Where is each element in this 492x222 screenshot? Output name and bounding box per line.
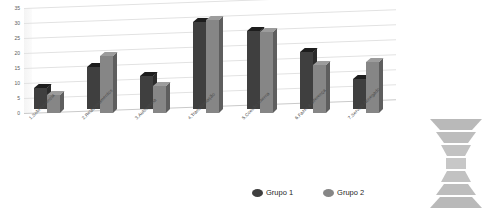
bar-side	[166, 82, 170, 113]
legend-label: Grupo 1	[266, 188, 293, 197]
y-tick-label: 20	[14, 51, 20, 56]
legend-swatch-icon	[252, 189, 263, 197]
legend-item[interactable]: Grupo 1	[252, 188, 293, 197]
chart-figure: 05101520253035 1.Sobrevivência2.Relacion…	[0, 0, 492, 222]
bar-grupo-2[interactable]	[100, 56, 113, 113]
y-tick-label: 30	[14, 21, 20, 26]
y-tick-label: 10	[14, 81, 20, 86]
consciousness-levels-funnel: 7654321	[424, 118, 488, 218]
y-axis: 05101520253035	[0, 0, 22, 118]
plot-area: 05101520253035 1.Sobrevivência2.Relacion…	[0, 0, 420, 175]
y-tick-label: 35	[14, 6, 20, 11]
funnel-shape-svg	[424, 118, 488, 218]
x-axis: 1.Sobrevivência2.Relacionamentos3.Autoes…	[24, 113, 396, 171]
bar-face	[100, 56, 113, 113]
y-tick-label: 0	[17, 111, 20, 116]
bar-face	[193, 22, 206, 109]
bar-grupo-1[interactable]	[193, 22, 206, 109]
bar-side	[273, 28, 277, 113]
bar-group	[130, 8, 183, 113]
bar-side	[219, 16, 223, 113]
legend-label: Grupo 2	[337, 188, 364, 197]
bar-grupo-1[interactable]	[247, 31, 260, 109]
legend-swatch-icon	[323, 189, 334, 197]
bar-side	[379, 58, 383, 113]
chart-legend: Grupo 1Grupo 2	[252, 188, 364, 197]
y-tick-label: 15	[14, 66, 20, 71]
bar-side	[113, 52, 117, 113]
bar-face	[247, 31, 260, 109]
y-tick-label: 25	[14, 36, 20, 41]
bar-side	[326, 61, 330, 113]
legend-item[interactable]: Grupo 2	[323, 188, 364, 197]
y-tick-label: 5	[17, 96, 20, 101]
